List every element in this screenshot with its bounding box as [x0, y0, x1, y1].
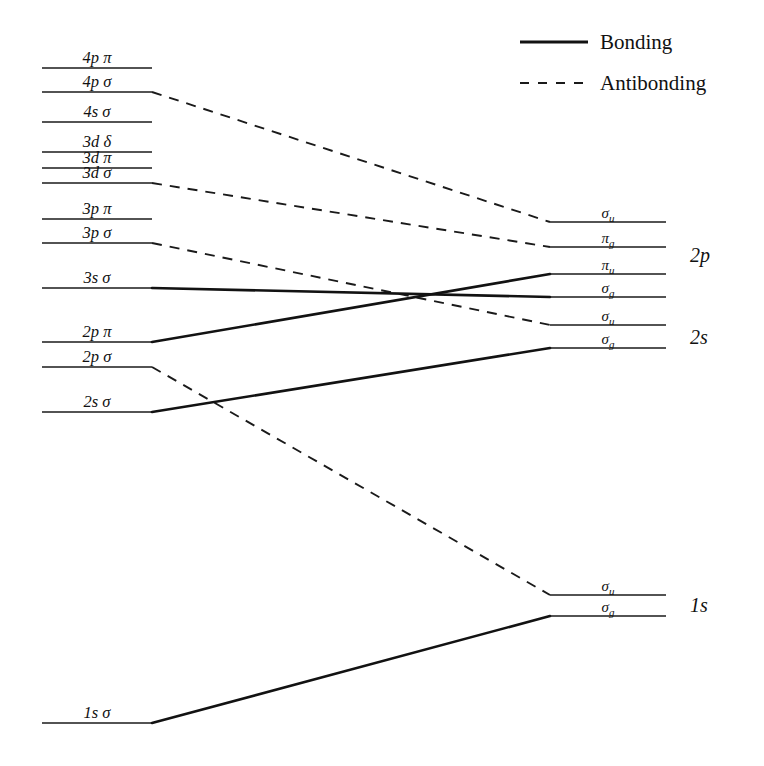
ao-level-label: 3d σ [82, 163, 113, 182]
ao-level-label: 3p π [82, 199, 113, 218]
ao-level-4s-sig: 4s σ [42, 102, 152, 122]
shell-group-label-2p: 2p [690, 244, 710, 267]
corr-1s-sigma-to-1s-sigma-g [152, 616, 550, 723]
mo-subscript: u [609, 264, 615, 276]
mo-level-mo-2p-pi-u: πu [550, 257, 666, 276]
ao-level-label: 4p π [83, 48, 113, 67]
ao-level-4p-sig: 4p σ [42, 72, 152, 92]
corr-3s-sigma-to-2p-sigma-g [152, 288, 550, 297]
corr-2s-sigma-to-2s-sigma-g [152, 348, 550, 412]
legend-bonding-label: Bonding [600, 30, 673, 54]
ao-level-label: 1s σ [84, 703, 112, 722]
corr-4p-sigma-to-2p-sigma-u [152, 92, 550, 222]
mo-level-mo-2p-sigma-g: σg [550, 280, 666, 299]
ao-level-2s-sig: 2s σ [42, 392, 152, 412]
ao-level-label: 4p σ [83, 72, 113, 91]
ao-level-1s-sig: 1s σ [42, 703, 152, 723]
mo-level-mo-1s-sigma-u: σu [550, 578, 666, 597]
ao-level-3s-sig: 3s σ [42, 268, 152, 288]
shell-group-label-2s: 2s [690, 326, 708, 348]
mo-level-mo-2s-sigma-u: σu [550, 308, 666, 327]
correlation-lines [152, 92, 550, 723]
mo-correlation-diagram: Bonding Antibonding 4p π4p σ4s σ3d δ3d π… [0, 0, 764, 766]
shell-group-labels: 2p2s1s [690, 244, 710, 616]
ao-level-label: 2s σ [84, 392, 112, 411]
ao-level-4p-pi: 4p π [42, 48, 152, 68]
diagram-canvas: Bonding Antibonding 4p π4p σ4s σ3d δ3d π… [0, 0, 764, 766]
mo-subscript: u [609, 585, 615, 597]
mo-subscript: g [609, 606, 615, 618]
ao-level-label: 3s σ [83, 268, 112, 287]
mo-level-mo-2s-sigma-g: σg [550, 331, 666, 350]
legend: Bonding Antibonding [520, 30, 707, 95]
ao-level-3p-pi: 3p π [42, 199, 152, 219]
legend-antibonding-label: Antibonding [600, 71, 707, 95]
mo-level-mo-1s-sigma-g: σg [550, 599, 666, 618]
ao-level-3d-sig: 3d σ [42, 163, 152, 183]
mo-subscript: u [609, 315, 615, 327]
ao-level-2p-pi: 2p π [42, 322, 152, 342]
mo-subscript: g [609, 237, 615, 249]
shell-group-label-1s: 1s [690, 594, 708, 616]
corr-3d-sigma-to-2p-pi-g [152, 183, 550, 247]
ao-level-label: 3p σ [82, 223, 113, 242]
mo-level-mo-2p-pi-g: πg [550, 230, 666, 249]
ao-level-3p-sig: 3p σ [42, 223, 152, 243]
mo-level-mo-2p-sigma-u: σu [550, 205, 666, 224]
molecular-orbital-levels: σuπgπuσgσuσgσuσg [550, 205, 666, 618]
mo-subscript: u [609, 212, 615, 224]
atomic-orbital-levels: 4p π4p σ4s σ3d δ3d π3d σ3p π3p σ3s σ2p π… [42, 48, 152, 723]
ao-level-label: 2p π [83, 322, 113, 341]
ao-level-label: 2p σ [83, 347, 113, 366]
ao-level-2p-sig: 2p σ [42, 347, 152, 367]
ao-level-label: 4s σ [84, 102, 112, 121]
mo-subscript: g [609, 287, 615, 299]
mo-subscript: g [609, 338, 615, 350]
